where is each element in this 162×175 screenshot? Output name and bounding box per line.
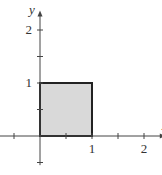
x-axis-arrowhead <box>160 134 162 139</box>
shaded-unit-square <box>40 83 92 136</box>
y-axis-label: y <box>27 2 35 17</box>
y-tick-label: 2 <box>26 22 33 37</box>
x-tick-label: 1 <box>89 141 96 156</box>
x-tick-labels: 12 <box>89 141 148 156</box>
y-tick-label: 1 <box>26 75 33 90</box>
coordinate-plane: 12 12 x y <box>0 0 162 175</box>
x-tick-label: 2 <box>141 141 148 156</box>
y-axis-arrowhead <box>38 10 43 16</box>
y-tick-labels: 12 <box>26 22 33 90</box>
x-axis-label: x <box>161 118 162 133</box>
